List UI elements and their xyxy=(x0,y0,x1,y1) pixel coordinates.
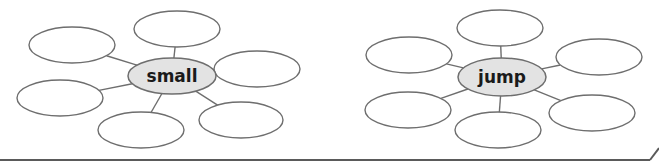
word-web-canvas: smalljump xyxy=(0,0,659,163)
connector-line-upper-left xyxy=(446,64,463,68)
answer-bubble-right[interactable] xyxy=(214,51,300,87)
answer-bubble-left[interactable] xyxy=(17,80,103,116)
hub-word-label: jump xyxy=(477,67,526,87)
answer-bubble-bottom-right[interactable] xyxy=(199,102,283,138)
answer-bubble-bottom[interactable] xyxy=(455,112,541,148)
connector-line-upper-left xyxy=(107,56,137,65)
connector-line-bottom xyxy=(151,94,162,113)
page-corner-edge xyxy=(650,148,659,160)
connector-line-right xyxy=(542,65,561,69)
answer-bubble-top[interactable] xyxy=(134,11,220,47)
connector-line-bottom-right xyxy=(196,91,218,105)
answer-bubble-upper-left[interactable] xyxy=(29,27,115,63)
answer-bubble-upper-left[interactable] xyxy=(366,37,452,73)
answer-bubble-bottom-right[interactable] xyxy=(549,95,635,131)
small-word-web: small xyxy=(17,11,300,148)
answer-bubble-right[interactable] xyxy=(556,39,642,75)
connector-line-left xyxy=(441,89,468,98)
answer-bubble-top[interactable] xyxy=(457,10,543,46)
connector-line-bottom xyxy=(499,96,500,112)
answer-bubble-bottom[interactable] xyxy=(98,112,184,148)
jump-word-web: jump xyxy=(365,10,642,148)
connector-line-top xyxy=(174,47,175,58)
connector-line-left xyxy=(99,84,132,91)
connector-line-bottom-right xyxy=(534,90,561,101)
hub-word-label: small xyxy=(147,66,198,86)
answer-bubble-left[interactable] xyxy=(365,92,451,128)
